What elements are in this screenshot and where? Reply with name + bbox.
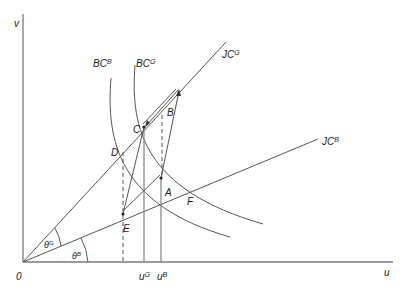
u-b-tick-label: uB <box>157 271 168 282</box>
theta-b-label: θB <box>72 251 81 261</box>
point-e-label: E <box>123 223 130 234</box>
jc-b-label: JCB <box>321 136 339 147</box>
line-a-e-offset <box>124 175 160 210</box>
u-g-tick-label: uG <box>139 271 151 282</box>
arrow-up-icon <box>176 89 181 96</box>
bc-g-label: BCG <box>136 58 156 69</box>
point-f-label: F <box>187 196 194 207</box>
bc-b-curve <box>110 78 230 237</box>
point-e <box>121 212 124 215</box>
bc-b-label: BCB <box>93 58 112 69</box>
jc-g-label: JCG <box>221 49 240 60</box>
theta-b-arc <box>81 238 88 262</box>
theta-g-label: θG <box>44 240 54 250</box>
theta-g-arc <box>55 228 61 246</box>
point-c <box>142 125 145 128</box>
origin-label: 0 <box>16 271 22 282</box>
point-d-label: D <box>111 147 118 158</box>
u-axis-label: u <box>384 267 390 278</box>
jc-b-ray <box>23 139 318 262</box>
line-a-b <box>161 91 179 178</box>
point-a <box>159 176 162 179</box>
point-b-label: B <box>167 107 174 118</box>
point-a-label: A <box>164 187 172 198</box>
point-c-label: C <box>133 124 141 135</box>
figure-caption-clipped <box>0 287 260 293</box>
bargaining-diagram: v u 0 BCB BCG JCG JCB B C D F A E θG θB … <box>0 0 408 293</box>
v-axis-label: v <box>14 18 20 29</box>
